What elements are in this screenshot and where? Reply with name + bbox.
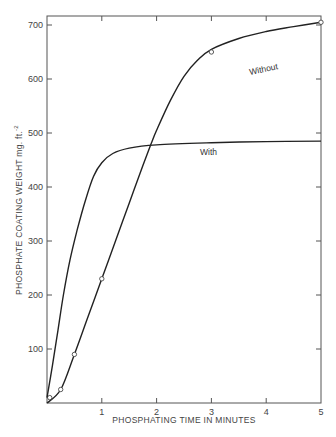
y-tick-label: 600: [28, 74, 43, 84]
y-tick-label: 500: [28, 128, 43, 138]
plot-frame: [47, 16, 321, 403]
series-line-without: [47, 22, 321, 403]
data-point-marker: [72, 352, 76, 356]
y-axis-title: PHOSPHATE COATING WEIGHT mg. ft.-2: [13, 125, 24, 295]
x-tick-label: 1: [99, 407, 104, 417]
x-tick-label: 4: [264, 407, 269, 417]
x-tick-label: 5: [318, 407, 323, 417]
x-axis-title: PHOSPHATING TIME IN MINUTES: [112, 415, 255, 425]
y-tick-label: 300: [28, 236, 43, 246]
series-line-with: [47, 141, 321, 398]
data-point-marker: [209, 50, 213, 54]
series-label-with: With: [200, 147, 217, 157]
y-tick-label: 400: [28, 182, 43, 192]
y-tick-label: 100: [28, 344, 43, 354]
series-layer: [47, 20, 323, 403]
chart: 100200300400500600700 12345 PHOSPHATING …: [0, 0, 336, 437]
x-axis-ticks: 12345: [99, 16, 323, 417]
data-point-marker: [100, 277, 104, 281]
data-point-marker: [59, 387, 63, 391]
data-point-marker: [48, 395, 52, 399]
data-point-marker: [319, 20, 323, 24]
series-label-without: Without: [248, 61, 279, 77]
y-tick-label: 700: [28, 20, 43, 30]
y-tick-label: 200: [28, 290, 43, 300]
